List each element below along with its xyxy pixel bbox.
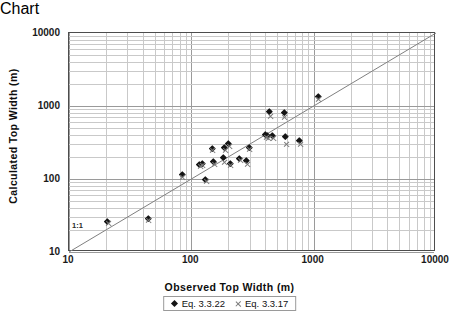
- gridline-horizontal: [69, 186, 434, 187]
- gridline-horizontal: [69, 179, 434, 180]
- legend-label: Eq. 3.3.22: [182, 298, 225, 309]
- plot-area: [68, 32, 435, 251]
- gridline-horizontal: [69, 84, 434, 85]
- x-tick-label: 1000: [302, 254, 324, 265]
- gridline-horizontal: [69, 113, 434, 114]
- data-point-eq-3-3-17: [315, 96, 322, 103]
- gridline-horizontal: [69, 40, 434, 41]
- gridline-horizontal: [69, 44, 434, 45]
- gridline-horizontal: [69, 190, 434, 191]
- gridline-horizontal: [69, 55, 434, 56]
- data-point-eq-3-3-17: [211, 161, 218, 168]
- gridline-horizontal: [69, 157, 434, 158]
- y-axis-title: Calculated Top Width (m): [7, 31, 19, 241]
- cross-marker-icon: [234, 300, 242, 308]
- gridline-horizontal: [69, 128, 434, 129]
- gridline-horizontal: [69, 217, 434, 218]
- data-point-eq-3-3-17: [209, 147, 216, 154]
- x-tick-label: 10000: [421, 254, 449, 265]
- gridline-horizontal: [69, 182, 434, 183]
- ratio-annotation: 1:1: [72, 221, 83, 230]
- gridline-horizontal: [69, 62, 434, 63]
- x-tick-label: 10: [62, 254, 73, 265]
- data-point-eq-3-3-17: [197, 163, 204, 170]
- gridline-horizontal: [69, 230, 434, 231]
- data-point-eq-3-3-17: [199, 162, 206, 169]
- chart-legend: Eq. 3.3.22 Eq. 3.3.17: [163, 296, 297, 311]
- legend-item-eq-3-3-17[interactable]: Eq. 3.3.17: [234, 298, 288, 309]
- legend-label: Eq. 3.3.17: [245, 298, 288, 309]
- gridline-horizontal: [69, 195, 434, 196]
- one-to-one-reference-line: [69, 33, 436, 252]
- gridline-horizontal: [69, 208, 434, 209]
- gridline-horizontal: [69, 109, 434, 110]
- diamond-marker-icon: [171, 300, 179, 308]
- y-tick-label: 10: [4, 246, 60, 257]
- gridline-horizontal: [69, 135, 434, 136]
- gridline-horizontal: [69, 117, 434, 118]
- x-axis-title: Observed Top Width (m): [0, 281, 459, 293]
- gridline-horizontal: [69, 122, 434, 123]
- gridline-horizontal: [69, 49, 434, 50]
- gridline-horizontal: [69, 144, 434, 145]
- figure-container: 1:1 10100100010000 10100100010000 Observ…: [0, 18, 459, 315]
- legend-item-eq-3-3-22[interactable]: Eq. 3.3.22: [171, 298, 225, 309]
- x-tick-label: 100: [182, 254, 199, 265]
- gridline-horizontal: [69, 201, 434, 202]
- gridline-horizontal: [69, 252, 434, 253]
- gridline-horizontal: [69, 36, 434, 37]
- data-point-eq-3-3-17: [221, 159, 228, 166]
- gridline-horizontal: [69, 71, 434, 72]
- gridline-horizontal: [69, 106, 434, 107]
